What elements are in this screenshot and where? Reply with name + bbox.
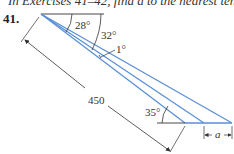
- unknown-a-label: a: [215, 128, 221, 140]
- extension-bottom: [170, 126, 185, 152]
- extension-top: [21, 17, 39, 42]
- angle-32-label: 32°: [101, 29, 116, 41]
- length-450-label: 450: [88, 94, 105, 106]
- angle-28-label: 28°: [75, 19, 90, 31]
- ray-2: [41, 14, 204, 123]
- angle-35-label: 35°: [145, 106, 160, 118]
- angle-1-label: 1°: [116, 43, 126, 55]
- ray-3: [41, 14, 232, 123]
- triangle-diagram: 28° 32° 1° 450 35° a: [0, 0, 234, 154]
- dimension-450-b: [108, 106, 170, 151]
- dimension-450-a: [25, 40, 85, 88]
- leader-1: [101, 50, 115, 57]
